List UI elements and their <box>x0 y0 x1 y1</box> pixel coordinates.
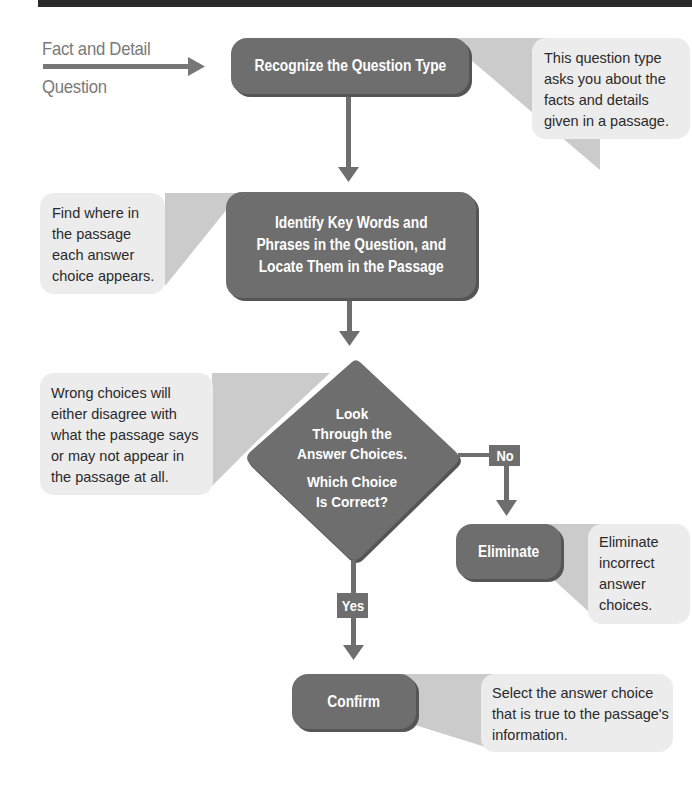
step-eliminate: Eliminate <box>456 524 561 579</box>
callout-line: This question type <box>544 48 690 69</box>
callout-line: Wrong choices will <box>51 383 213 404</box>
callout-line: either disagree with <box>51 404 213 425</box>
callout-line: incorrect <box>599 553 690 574</box>
callout-line: what the passage says <box>51 425 213 446</box>
decision-label-line: Look <box>273 404 431 424</box>
callout-confirm: Select the answer choice that is true to… <box>481 674 673 752</box>
callout-line: given in a passage. <box>544 111 690 132</box>
step-identify-key-words: Identify Key Words and Phrases in the Qu… <box>226 192 476 298</box>
callout-line: Select the answer choice <box>492 683 673 704</box>
callout-line: that is true to the passage's <box>492 704 673 725</box>
yes-label-text: Yes <box>341 597 363 614</box>
callout-line: answer <box>599 574 690 595</box>
step-recognize-question-type: Recognize the Question Type <box>231 38 469 94</box>
decision-label-line: Through the <box>273 424 431 444</box>
callout-line: the passage <box>52 224 165 245</box>
step-label-line: Identify Key Words and <box>256 212 446 234</box>
decision-question-line: Which Choice <box>273 472 431 492</box>
callout-line: each answer <box>52 245 165 266</box>
callout-line: or may not appear in <box>51 446 213 467</box>
no-label-text: No <box>496 447 513 464</box>
callout-eliminate: Eliminate incorrect answer choices. <box>588 524 690 624</box>
callout-line: choices. <box>599 595 690 616</box>
decision-diamond-text: Look Through the Answer Choices. Which C… <box>262 404 442 512</box>
callout-line: Find where in <box>52 203 165 224</box>
yes-branch-label: Yes <box>337 593 368 618</box>
top-bar <box>38 0 692 7</box>
callout-line: information. <box>492 725 673 746</box>
arrow-down-icon <box>338 96 359 182</box>
step-label-line: Locate Them in the Passage <box>256 256 446 278</box>
callout-identify: Find where in the passage each answer ch… <box>40 193 165 294</box>
callout-decision: Wrong choices will either disagree with … <box>40 373 213 495</box>
callout-line: facts and details <box>544 90 690 111</box>
step-label: Eliminate <box>478 543 539 561</box>
step-label: Recognize the Question Type <box>254 57 446 75</box>
arrow-down-icon <box>339 300 360 346</box>
callout-line: Eliminate <box>599 532 690 553</box>
callout-line: the passage at all. <box>51 467 213 488</box>
step-confirm: Confirm <box>292 674 416 729</box>
step-label-line: Phrases in the Question, and <box>256 234 446 256</box>
callout-recognize: This question type asks you about the fa… <box>532 38 690 139</box>
decision-question-line: Is Correct? <box>273 492 431 512</box>
callout-line: asks you about the <box>544 69 690 90</box>
intro-label-line2: Question <box>42 76 107 98</box>
no-branch-label: No <box>489 445 520 466</box>
intro-label-line1: Fact and Detail <box>42 38 151 60</box>
callout-line: choice appears. <box>52 266 165 287</box>
step-label: Confirm <box>328 693 381 711</box>
decision-label-line: Answer Choices. <box>273 444 431 464</box>
